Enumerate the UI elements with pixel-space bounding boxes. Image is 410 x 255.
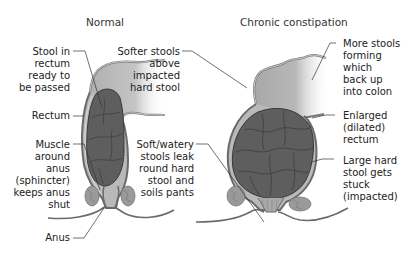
normal-stool bbox=[87, 89, 124, 186]
normal-sphincter-right bbox=[121, 186, 135, 206]
label-stool-in-rectum: Stool in rectum ready to be passed bbox=[19, 46, 70, 94]
label-rectum: Rectum bbox=[32, 110, 70, 122]
label-anus: Anus bbox=[45, 232, 70, 244]
constipation-sphincter-left bbox=[227, 186, 245, 206]
label-large-hard-stool: Large hard stool gets stuck (impacted) bbox=[343, 155, 398, 203]
label-soft-watery-stools: Soft/watery stools leak round hard stool… bbox=[136, 139, 194, 199]
label-softer-stools: Softer stools above impacted hard stool bbox=[117, 46, 180, 94]
normal-sphincter-left bbox=[85, 186, 99, 206]
label-more-stools: More stools forming which back up into c… bbox=[343, 38, 400, 98]
constipation-anatomy bbox=[196, 55, 348, 222]
label-sphincter: Muscle around anus (sphincter) keeps anu… bbox=[14, 139, 71, 211]
constipation-sphincter-right bbox=[289, 197, 311, 211]
label-enlarged-rectum: Enlarged (dilated) rectum bbox=[343, 110, 387, 146]
